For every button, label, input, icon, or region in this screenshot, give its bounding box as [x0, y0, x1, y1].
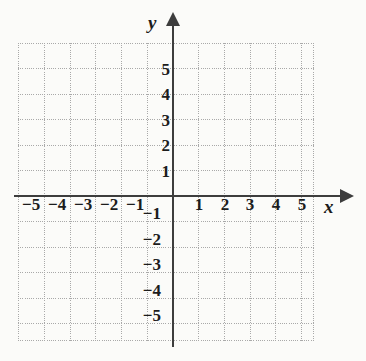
x-tick-label-pos5: 5	[289, 196, 315, 214]
x-tick-label-pos4: 4	[263, 196, 289, 214]
x-axis-arrow-icon	[340, 189, 354, 203]
x-tick-label-neg5: −5	[22, 196, 40, 214]
x-axis-label: x	[324, 196, 334, 218]
y-tick-label-neg1: −1	[135, 205, 161, 223]
y-tick-label-neg4: −4	[135, 282, 161, 300]
y-tick-label-pos4: 4	[144, 86, 170, 104]
y-tick-label-pos5: 5	[144, 61, 170, 79]
x-tick-label-neg4: −4	[48, 196, 66, 214]
y-tick-label-neg5: −5	[135, 307, 161, 325]
x-tick-label-pos1: 1	[186, 196, 212, 214]
y-axis-arrow-icon	[166, 12, 180, 26]
y-tick-label-pos3: 3	[144, 112, 170, 130]
gridline-horizontal	[18, 272, 314, 273]
gridline-horizontal	[18, 221, 314, 222]
x-tick-label-neg3: −3	[74, 196, 92, 214]
y-tick-label-pos2: 2	[144, 137, 170, 155]
gridline-horizontal	[18, 247, 314, 248]
x-tick-label-neg2: −2	[100, 196, 118, 214]
y-axis-line	[172, 25, 174, 347]
y-tick-label-neg3: −3	[135, 256, 161, 274]
x-tick-label-pos3: 3	[237, 196, 263, 214]
y-tick-label-neg2: −2	[135, 231, 161, 249]
gridline-horizontal	[18, 43, 314, 44]
gridline-horizontal	[18, 298, 314, 299]
coordinate-plane-figure: y x −5 −4 −3 −2 −1 1 2 3 4 5 5 4 3 2 1 −…	[0, 0, 366, 361]
x-tick-label-pos2: 2	[212, 196, 238, 214]
y-axis-label: y	[148, 12, 156, 34]
y-tick-label-pos1: 1	[144, 163, 170, 181]
gridline-horizontal	[18, 323, 314, 324]
gridline-horizontal	[18, 340, 314, 341]
